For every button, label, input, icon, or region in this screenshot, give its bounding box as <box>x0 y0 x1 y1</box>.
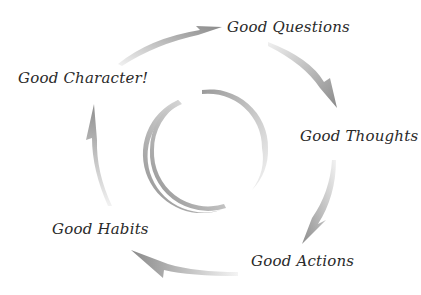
arrow-questions-to-thoughts <box>268 42 337 108</box>
center-ring <box>143 89 268 213</box>
stage-label-good-character: Good Character! <box>18 69 148 87</box>
arrow-actions-to-habits <box>131 250 238 278</box>
stage-label-good-actions: Good Actions <box>251 252 354 270</box>
cycle-diagram: Good Questions Good Thoughts Good Action… <box>0 0 421 295</box>
stage-label-good-questions: Good Questions <box>227 18 350 36</box>
arrow-character-to-questions <box>118 26 222 66</box>
arrow-habits-to-character <box>86 104 112 206</box>
arrow-thoughts-to-actions <box>302 160 336 244</box>
stage-label-good-habits: Good Habits <box>52 220 149 238</box>
stage-label-good-thoughts: Good Thoughts <box>300 127 418 145</box>
cycle-arrows <box>0 0 421 295</box>
